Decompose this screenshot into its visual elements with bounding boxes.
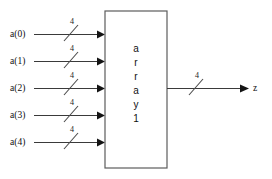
bus-width-label-z: 4 xyxy=(195,71,199,80)
output-port-z: 4 z xyxy=(167,71,257,95)
input-port-a3: a(3) 4 xyxy=(10,98,105,122)
input-port-a4: a(4) 4 xyxy=(10,125,105,149)
block-diagram-svg: a(0) 4 a(1) 4 a(2) 4 a(3) xyxy=(0,0,272,179)
bus-width-label-a0: 4 xyxy=(70,17,74,26)
output-arrowhead-z xyxy=(240,85,249,93)
input-arrowhead-a2 xyxy=(97,85,105,93)
array1-label-char-3: a xyxy=(133,85,139,96)
input-arrowhead-a1 xyxy=(97,58,105,66)
input-arrowhead-a4 xyxy=(97,139,105,147)
input-port-a1: a(1) 4 xyxy=(10,44,105,68)
input-arrowhead-a3 xyxy=(97,112,105,120)
array1-block[interactable]: a r r a y 1 xyxy=(105,11,167,168)
bus-slash-a1 xyxy=(64,52,78,68)
input-label-a0: a(0) xyxy=(10,29,25,40)
input-arrowhead-a0 xyxy=(97,31,105,39)
bus-slash-a2 xyxy=(64,79,78,95)
output-label-z: z xyxy=(253,83,257,93)
bus-slash-a0 xyxy=(64,25,78,41)
input-label-a4: a(4) xyxy=(10,137,25,148)
bus-slash-a3 xyxy=(64,106,78,122)
bus-width-label-a2: 4 xyxy=(70,71,74,80)
array1-label-char-4: y xyxy=(134,99,139,110)
bus-width-label-a1: 4 xyxy=(70,44,74,53)
bus-width-label-a4: 4 xyxy=(70,125,74,134)
input-label-a2: a(2) xyxy=(10,83,25,94)
input-port-a0: a(0) 4 xyxy=(10,17,105,41)
bus-width-label-a3: 4 xyxy=(70,98,74,107)
input-label-a1: a(1) xyxy=(10,56,25,67)
array1-label-char-0: a xyxy=(133,43,139,54)
bus-slash-a4 xyxy=(64,133,78,149)
bus-slash-z xyxy=(189,79,203,95)
array1-label-char-5: 1 xyxy=(133,113,139,124)
input-port-a2: a(2) 4 xyxy=(10,71,105,95)
input-label-a3: a(3) xyxy=(10,110,25,121)
block-diagram-canvas: a(0) 4 a(1) 4 a(2) 4 a(3) xyxy=(0,0,272,179)
